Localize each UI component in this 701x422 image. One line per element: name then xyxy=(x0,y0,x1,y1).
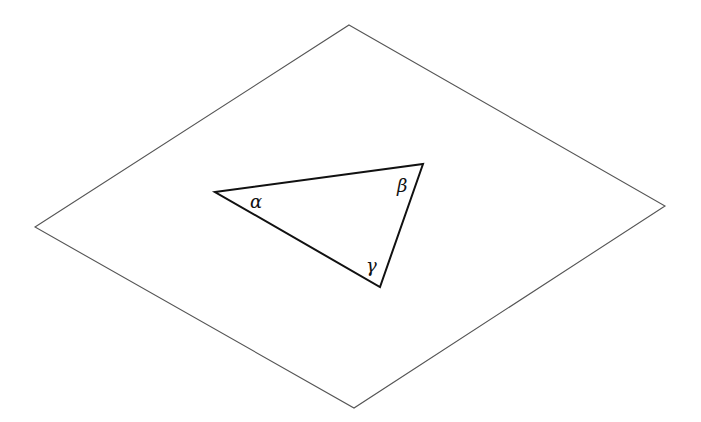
triangle xyxy=(215,164,423,287)
diagram-canvas: α β γ xyxy=(0,0,701,422)
angle-alpha-label: α xyxy=(250,191,262,212)
angle-beta-label: β xyxy=(396,175,407,196)
angle-gamma-label: γ xyxy=(366,255,377,276)
plane-parallelogram xyxy=(35,25,665,408)
